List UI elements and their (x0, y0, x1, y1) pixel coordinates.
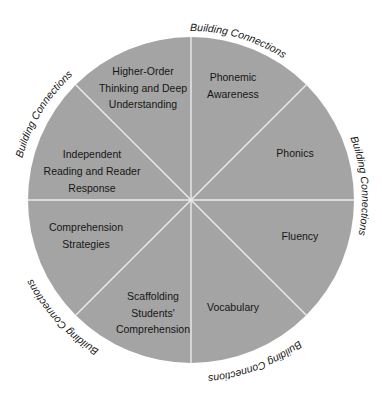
segment-label-line: Fluency (282, 230, 320, 242)
segment-label-line: Response (68, 182, 115, 194)
segment-label-line: Comprehension (49, 221, 123, 233)
segment-label-line: Higher-Order (112, 65, 174, 77)
segment-label-line: Scaffolding (127, 290, 179, 302)
segment-label-line: Phonemic (210, 71, 257, 83)
segment-label-line: Vocabulary (207, 301, 260, 313)
segment-label-line: Students' (131, 307, 174, 319)
segment-fluency: Fluency (282, 230, 320, 242)
literacy-wheel-diagram: Phonemic Awareness Phonics Fluency Vocab… (0, 0, 382, 403)
segment-label-line: Reading and Reader (44, 165, 141, 177)
segment-label-line: Awareness (207, 88, 259, 100)
segment-phonics: Phonics (276, 147, 313, 159)
segment-label-line: Thinking and Deep (99, 82, 187, 94)
segment-vocabulary: Vocabulary (207, 301, 260, 313)
segment-label-line: Phonics (276, 147, 313, 159)
segment-label-line: Understanding (109, 98, 177, 110)
segment-label-line: Independent (63, 148, 121, 160)
segment-dividers (28, 37, 354, 363)
wheel (28, 37, 354, 363)
segment-label-line: Strategies (62, 238, 109, 250)
segment-label-line: Comprehension (116, 323, 190, 335)
